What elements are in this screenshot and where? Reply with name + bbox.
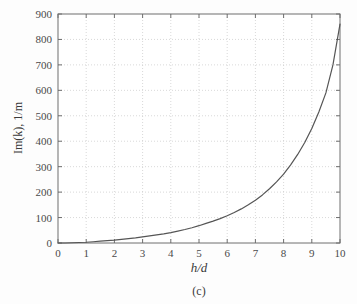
x-tick-label: 9	[309, 247, 315, 259]
x-tick-label: 2	[112, 247, 118, 259]
y-tick-label: 100	[36, 212, 53, 224]
chart-canvas: 012345678910 010020030040050060070080090…	[0, 0, 357, 304]
y-tick-label: 900	[36, 8, 53, 20]
y-tick-labels: 0100200300400500600700800900	[36, 8, 53, 249]
y-tick-label: 600	[36, 84, 53, 96]
y-tick-label: 700	[36, 59, 53, 71]
x-tick-labels: 012345678910	[55, 247, 346, 259]
x-tick-label: 8	[281, 247, 287, 259]
y-tick-label: 0	[47, 237, 53, 249]
x-axis-label: h/d	[191, 260, 208, 275]
y-axis-label: Im(k), 1/m	[11, 101, 25, 154]
x-tick-label: 5	[196, 247, 202, 259]
y-tick-label: 200	[36, 186, 53, 198]
x-tick-label: 1	[83, 247, 89, 259]
figure-caption: (c)	[192, 284, 205, 298]
y-tick-label: 500	[36, 110, 53, 122]
y-tick-label: 800	[36, 33, 53, 45]
y-tick-label: 400	[36, 135, 53, 147]
x-tick-label: 3	[140, 247, 146, 259]
x-tick-label: 4	[168, 247, 174, 259]
x-tick-label: 10	[335, 247, 347, 259]
figure-panel: 012345678910 010020030040050060070080090…	[0, 0, 357, 304]
x-tick-label: 6	[224, 247, 230, 259]
x-tick-label: 7	[253, 247, 259, 259]
y-tick-label: 300	[36, 161, 53, 173]
x-tick-label: 0	[55, 247, 61, 259]
